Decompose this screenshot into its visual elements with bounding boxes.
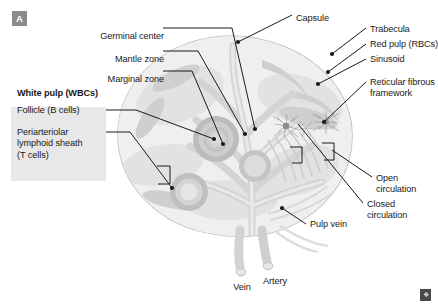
dot-pulp-vein <box>280 206 284 210</box>
leader-capsule <box>238 15 292 42</box>
artery-vessel <box>262 230 268 266</box>
follicle-lower-left <box>170 173 208 211</box>
dot-follicle <box>212 137 216 141</box>
white-pulp-heading: White pulp (WBCs) <box>17 88 98 99</box>
label-closed-circulation: Closed circulation <box>367 199 407 222</box>
label-periarteriolar-lymphoid-sheath: Periarteriolar lymphoid sheath (T cells) <box>17 127 82 161</box>
label-trabecula: Trabecula <box>370 24 410 35</box>
follicle-small-middle <box>239 150 271 182</box>
artist-signature-mark: ❖ <box>420 289 431 301</box>
leader-sinusoid <box>318 59 366 84</box>
label-artery: Artery <box>253 276 297 287</box>
leader-trabecula <box>332 28 366 54</box>
leader-red-pulp <box>328 44 366 72</box>
label-germinal-center: Germinal center <box>60 31 164 42</box>
dot-germinal-center <box>253 127 257 131</box>
spleen-organ-body <box>110 30 360 290</box>
dot-capsule <box>236 40 240 44</box>
dot-trabecula <box>330 52 334 56</box>
figure-panel: A White pulp (WBCs) Follicle (B cells) P… <box>0 0 438 307</box>
vein-vessel <box>239 230 241 272</box>
dot-reticular-framework <box>322 120 326 124</box>
label-sinusoid: Sinusoid <box>370 54 404 65</box>
dot-red-pulp <box>326 70 330 74</box>
dot-marginal-zone <box>221 142 225 146</box>
dot-mantle-zone <box>243 132 247 136</box>
label-follicle-b-cells: Follicle (B cells) <box>17 105 80 116</box>
label-marginal-zone: Marginal zone <box>60 74 164 85</box>
dot-pals <box>170 186 174 190</box>
label-pulp-vein: Pulp vein <box>310 219 347 230</box>
label-mantle-zone: Mantle zone <box>60 54 164 65</box>
label-open-circulation: Open circulation <box>376 173 416 196</box>
panel-badge-a: A <box>12 11 27 26</box>
label-reticular-fibrous-framework: Reticular fibrous framework <box>370 77 435 100</box>
label-red-pulp: Red pulp (RBCs) <box>370 39 438 50</box>
label-capsule: Capsule <box>296 13 329 24</box>
dot-sinusoid <box>316 82 320 86</box>
